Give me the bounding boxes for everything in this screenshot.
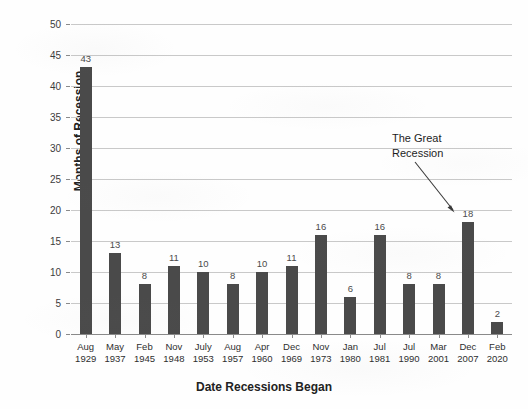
y-axis-tick-label: 0 bbox=[31, 329, 61, 340]
x-axis-tick-year: 1929 bbox=[75, 353, 96, 365]
annotation-the-great-recession: The Great Recession bbox=[392, 131, 484, 161]
x-axis-tick-mark bbox=[262, 334, 263, 338]
gridline bbox=[71, 55, 512, 56]
x-axis-tick-label: Nov1948 bbox=[163, 341, 184, 364]
bar-value-label: 10 bbox=[257, 258, 268, 269]
bar bbox=[315, 235, 327, 334]
x-axis-title: Date Recessions Began bbox=[0, 380, 528, 394]
x-axis-tick-year: 1980 bbox=[340, 353, 361, 365]
bar bbox=[344, 297, 356, 334]
x-axis-tick-mark bbox=[468, 334, 469, 338]
x-axis-tick-mark bbox=[497, 334, 498, 338]
bar bbox=[109, 253, 121, 334]
bar bbox=[256, 272, 268, 334]
x-axis-tick-mark bbox=[145, 334, 146, 338]
x-axis-tick-year: 1948 bbox=[163, 353, 184, 365]
y-axis-tick-mark bbox=[66, 272, 70, 273]
x-axis-tick-mark bbox=[203, 334, 204, 338]
x-axis-tick-year: 1990 bbox=[399, 353, 420, 365]
bar bbox=[433, 284, 445, 334]
x-axis-tick-mark bbox=[380, 334, 381, 338]
bar-value-label: 8 bbox=[142, 270, 147, 281]
x-axis-tick-year: 2001 bbox=[428, 353, 449, 365]
x-axis-tick-month: Dec bbox=[457, 341, 478, 353]
x-axis-tick-month: Apr bbox=[252, 341, 273, 353]
bar bbox=[227, 284, 239, 334]
x-axis-tick-month: Dec bbox=[281, 341, 302, 353]
bar-value-label: 16 bbox=[316, 221, 327, 232]
y-axis-tick-label: 10 bbox=[31, 267, 61, 278]
x-axis-tick-label: Apr1960 bbox=[252, 341, 273, 364]
x-axis-tick-month: May bbox=[105, 341, 126, 353]
gridline bbox=[71, 86, 512, 87]
y-axis-tick-mark bbox=[66, 24, 70, 25]
y-axis-tick-mark bbox=[66, 241, 70, 242]
bar bbox=[403, 284, 415, 334]
y-axis-tick-label: 15 bbox=[31, 236, 61, 247]
bar bbox=[168, 266, 180, 334]
y-axis-tick-label: 35 bbox=[31, 112, 61, 123]
y-axis-tick-label: 5 bbox=[31, 298, 61, 309]
bar bbox=[286, 266, 298, 334]
x-axis-tick-label: Nov1973 bbox=[310, 341, 331, 364]
x-axis-tick-mark bbox=[174, 334, 175, 338]
y-axis-tick-mark bbox=[66, 148, 70, 149]
x-axis-tick-label: Jul1981 bbox=[369, 341, 390, 364]
x-axis-tick-label: May1937 bbox=[105, 341, 126, 364]
x-axis-tick-mark bbox=[233, 334, 234, 338]
x-axis-tick-mark bbox=[350, 334, 351, 338]
x-axis-tick-year: 1973 bbox=[310, 353, 331, 365]
y-axis-tick-mark bbox=[66, 117, 70, 118]
y-axis-tick-mark bbox=[66, 179, 70, 180]
x-axis-tick-month: Jan bbox=[340, 341, 361, 353]
x-axis-tick-year: 2020 bbox=[487, 353, 508, 365]
x-axis-tick-year: 1957 bbox=[222, 353, 243, 365]
y-axis-tick-mark bbox=[66, 86, 70, 87]
bar bbox=[374, 235, 386, 334]
y-axis-tick-label: 40 bbox=[31, 81, 61, 92]
x-axis-tick-label: Aug1929 bbox=[75, 341, 96, 364]
bar-value-label: 16 bbox=[374, 221, 385, 232]
bar bbox=[491, 322, 503, 334]
x-axis-tick-mark bbox=[321, 334, 322, 338]
y-axis-tick-mark bbox=[66, 210, 70, 211]
y-axis-tick-label: 25 bbox=[31, 174, 61, 185]
x-axis-tick-label: Jan1980 bbox=[340, 341, 361, 364]
x-axis-tick-label: Mar2001 bbox=[428, 341, 449, 364]
bar bbox=[462, 222, 474, 334]
bar bbox=[139, 284, 151, 334]
bar-value-label: 11 bbox=[169, 252, 179, 263]
annotation-arrow-icon bbox=[405, 158, 465, 220]
y-axis-tick-label: 50 bbox=[31, 19, 61, 30]
x-axis-tick-label: Feb2020 bbox=[487, 341, 508, 364]
x-axis-tick-year: 1969 bbox=[281, 353, 302, 365]
x-axis-tick-year: 1945 bbox=[134, 353, 155, 365]
bar-value-label: 6 bbox=[348, 283, 353, 294]
x-axis-tick-month: July bbox=[193, 341, 214, 353]
x-axis-tick-year: 1953 bbox=[193, 353, 214, 365]
bar-value-label: 10 bbox=[198, 258, 209, 269]
x-axis-tick-label: July1953 bbox=[193, 341, 214, 364]
y-axis-tick-label: 30 bbox=[31, 143, 61, 154]
x-axis-tick-mark bbox=[439, 334, 440, 338]
y-axis-tick-mark bbox=[66, 303, 70, 304]
x-axis-tick-mark bbox=[115, 334, 116, 338]
bar bbox=[80, 67, 92, 334]
bar-value-label: 11 bbox=[287, 252, 297, 263]
x-axis-tick-month: Nov bbox=[310, 341, 331, 353]
annotation-line-1: The Great bbox=[392, 131, 484, 146]
x-axis-tick-mark bbox=[86, 334, 87, 338]
chart-page: Months of Recession 05101520253035404550… bbox=[0, 0, 528, 409]
bar bbox=[197, 272, 209, 334]
x-axis-tick-year: 2007 bbox=[457, 353, 478, 365]
x-axis-tick-mark bbox=[409, 334, 410, 338]
x-axis-tick-year: 1937 bbox=[105, 353, 126, 365]
bar-value-label: 2 bbox=[495, 308, 500, 319]
gridline bbox=[71, 117, 512, 118]
y-axis-tick-label: 45 bbox=[31, 50, 61, 61]
x-axis-tick-year: 1960 bbox=[252, 353, 273, 365]
y-axis-tick-label: 20 bbox=[31, 205, 61, 216]
x-axis-tick-mark bbox=[292, 334, 293, 338]
x-axis-tick-month: Nov bbox=[163, 341, 184, 353]
x-axis-tick-label: Jul1990 bbox=[399, 341, 420, 364]
